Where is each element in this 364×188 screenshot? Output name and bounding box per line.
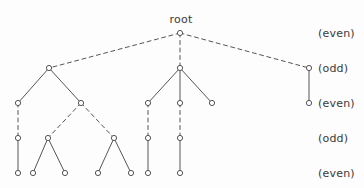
level-parity-label-4: (even): [318, 167, 355, 180]
level-parity-label-2: (even): [318, 97, 355, 110]
tree-node: [177, 135, 182, 140]
tree-edge-solid: [33, 138, 48, 173]
tree-node: [15, 170, 20, 175]
node-layer: [15, 30, 311, 175]
tree-node: [145, 100, 150, 105]
tree-edge-solid: [180, 68, 212, 103]
tree-edge-solid: [49, 68, 81, 103]
edge-layer: [18, 33, 309, 173]
tree-node: [62, 170, 67, 175]
tree-node: [15, 135, 20, 140]
tree-node: [15, 100, 20, 105]
tree-node: [111, 135, 116, 140]
tree-edge-solid: [48, 138, 65, 173]
tree-diagram-canvas: root (even)(odd)(even)(odd)(even): [0, 0, 364, 188]
tree-node: [128, 170, 133, 175]
tree-node: [145, 135, 150, 140]
tree-node: [177, 170, 182, 175]
tree-edge-dashed: [49, 33, 180, 68]
tree-node: [209, 100, 214, 105]
level-parity-label-3: (odd): [318, 132, 348, 145]
tree-node: [95, 170, 100, 175]
tree-node: [177, 100, 182, 105]
tree-edge-solid: [98, 138, 114, 173]
tree-node: [30, 170, 35, 175]
tree-node: [46, 65, 51, 70]
tree-edge-solid: [148, 68, 180, 103]
tree-node: [177, 65, 182, 70]
tree-node: [145, 170, 150, 175]
tree-node: [177, 30, 182, 35]
tree-node: [306, 65, 311, 70]
tree-node: [306, 100, 311, 105]
tree-edge-dashed: [48, 103, 81, 138]
tree-edge-solid: [18, 68, 49, 103]
level-parity-label-0: (even): [318, 27, 355, 40]
tree-node: [45, 135, 50, 140]
tree-edge-solid: [114, 138, 131, 173]
level-parity-label-1: (odd): [318, 62, 348, 75]
tree-node: [78, 100, 83, 105]
root-label: root: [170, 13, 193, 26]
tree-edge-dashed: [180, 33, 309, 68]
tree-edge-dashed: [81, 103, 114, 138]
tree-graph: [0, 0, 364, 188]
